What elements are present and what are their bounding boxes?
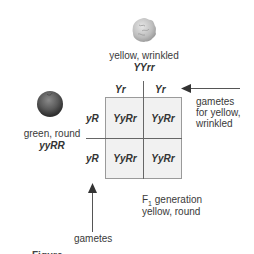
wrinkled-pea-icon bbox=[130, 16, 158, 44]
horizontal-divider bbox=[86, 138, 182, 139]
cell-2-2: YyRr bbox=[144, 138, 182, 178]
row-header-2: yR bbox=[86, 153, 99, 164]
top-gametes-label-3: wrinkled bbox=[196, 118, 233, 129]
cell-2-1: YyRr bbox=[106, 138, 144, 178]
arrow-up-icon bbox=[88, 183, 97, 193]
vertical-divider bbox=[143, 81, 144, 179]
f1-suffix: generation bbox=[152, 194, 202, 205]
column-header-1: Yr bbox=[115, 84, 126, 95]
arrow-left-icon bbox=[181, 84, 191, 93]
f1-phenotype: yellow, round bbox=[142, 206, 200, 217]
top-parent-genotype: YYrr bbox=[0, 62, 254, 73]
round-pea-icon bbox=[35, 89, 65, 119]
top-gametes-arrow-line bbox=[188, 88, 240, 89]
left-gametes-arrow-line bbox=[92, 190, 93, 232]
left-gametes-label: gametes bbox=[74, 233, 112, 244]
row-header-1: yR bbox=[86, 113, 99, 124]
cell-1-1: YyRr bbox=[106, 98, 144, 138]
top-gametes-label-1: gametes bbox=[196, 96, 234, 107]
cell-1-2: YyRr bbox=[144, 98, 182, 138]
top-gametes-label-2: for yellow, bbox=[196, 107, 240, 118]
left-parent-genotype: yyRR bbox=[0, 140, 104, 151]
top-parent-phenotype: yellow, wrinkled bbox=[0, 50, 254, 61]
column-header-2: Yr bbox=[155, 84, 166, 95]
